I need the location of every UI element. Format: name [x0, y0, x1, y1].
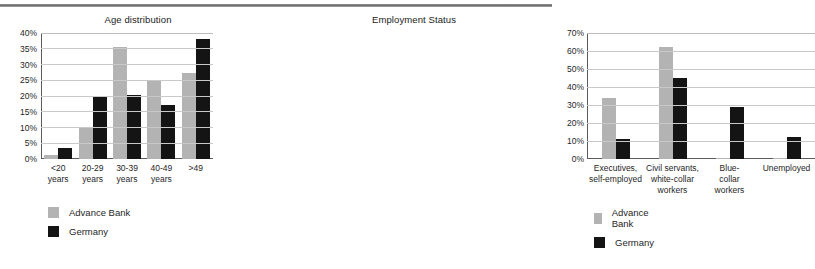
y-tick-age-40pct: 40% [20, 28, 37, 38]
bar-emp-0-advance-bank[interactable] [602, 98, 616, 159]
gridline-emp-20 [587, 123, 815, 124]
x-label-line: <20 [42, 163, 74, 174]
figure-sheet: Age distribution 0%5%10%15%20%25%30%35%4… [0, 9, 552, 269]
legend-item-age-germany[interactable]: Germany [48, 226, 130, 237]
gridline-emp-70 [587, 33, 815, 34]
y-tick-emp-30pct: 30% [567, 100, 584, 110]
x-axis-labels-employment: Executives,self-employed Civil servants,… [587, 163, 815, 196]
y-tick-emp-20pct: 20% [567, 118, 584, 128]
legend-item-emp-advance-bank[interactable]: Advance Bank [594, 207, 654, 229]
x-label-age-4: >49 [179, 163, 213, 185]
y-tick-age-25pct: 25% [20, 75, 37, 85]
y-tick-age-35pct: 35% [20, 44, 37, 54]
gridline-age-35 [41, 48, 213, 49]
bar-age-4-advance-bank[interactable] [182, 73, 196, 159]
legend-employment-status: Advance BankGermany [594, 207, 654, 256]
x-axis-labels-age: <20years20-29years30-39years40-49years>4… [41, 163, 213, 185]
bar-emp-1-advance-bank[interactable] [659, 47, 673, 159]
chart-title-employment-status: Employment Status [276, 14, 552, 25]
x-label-line: workers [702, 185, 757, 196]
x-label-age-1: 20-29years [75, 163, 109, 185]
gridline-age-15 [41, 111, 213, 112]
x-label-line: >49 [180, 163, 212, 174]
plot-area-employment-status [587, 33, 815, 159]
y-axis-employment-status: 0%10%20%30%40%50%60%70% [548, 33, 584, 159]
gridline-age-20 [41, 96, 213, 97]
x-label-line: 30-39 [111, 163, 143, 174]
y-tick-emp-70pct: 70% [567, 28, 584, 38]
bar-age-4-germany[interactable] [196, 39, 210, 159]
legend-label: Germany [69, 226, 108, 237]
y-tick-age-30pct: 30% [20, 60, 37, 70]
gridline-emp-50 [587, 69, 815, 70]
legend-label: Advance Bank [612, 207, 654, 229]
y-tick-age-0pct: 0% [25, 154, 37, 164]
gridline-emp-40 [587, 87, 815, 88]
gridline-emp-30 [587, 105, 815, 106]
x-label-line: Blue- [702, 163, 757, 174]
bar-age-0-advance-bank[interactable] [44, 155, 58, 159]
bar-emp-2-germany[interactable] [730, 107, 744, 159]
x-label-line: 40-49 [145, 163, 177, 174]
legend-age-distribution: Advance BankGermany [48, 207, 130, 245]
gridline-age-10 [41, 127, 213, 128]
x-label-line: Executives, [588, 163, 643, 174]
x-label-line: years [111, 174, 143, 185]
x-label-line: Civil servants, [645, 163, 700, 174]
gridline-emp-60 [587, 51, 815, 52]
gridline-age-25 [41, 80, 213, 81]
y-tick-emp-10pct: 10% [567, 136, 584, 146]
x-label-age-3: 40-49years [144, 163, 178, 185]
x-label-age-0: <20years [41, 163, 75, 185]
x-label-line: 20-29 [76, 163, 108, 174]
gridline-age-30 [41, 64, 213, 65]
bar-age-0-germany[interactable] [58, 148, 72, 159]
top-scan-rule [0, 4, 552, 7]
y-tick-emp-50pct: 50% [567, 64, 584, 74]
x-label-line: self-employed [588, 174, 643, 185]
x-label-emp-0: Executives,self-employed [587, 163, 644, 196]
x-label-line: collar [702, 174, 757, 185]
bar-age-3-germany[interactable] [161, 105, 175, 159]
legend-swatch-icon-advance-bank [48, 207, 59, 218]
gridline-emp-10 [587, 141, 815, 142]
legend-swatch-icon-germany [48, 226, 59, 237]
x-label-line: white-collar [645, 174, 700, 185]
bar-emp-0-germany[interactable] [616, 139, 630, 159]
chart-panel-employment-status: Employment Status 0%10%20%30%40%50%60%70… [276, 9, 552, 269]
gridline-age-40 [41, 33, 213, 34]
y-tick-emp-40pct: 40% [567, 82, 584, 92]
bar-emp-3-advance-bank[interactable] [773, 158, 787, 159]
x-label-line: years [76, 174, 108, 185]
plot-area-age-distribution [41, 33, 213, 159]
legend-label: Advance Bank [69, 207, 130, 218]
y-tick-age-15pct: 15% [20, 107, 37, 117]
legend-label: Germany [615, 237, 654, 248]
x-label-line: years [145, 174, 177, 185]
x-label-emp-1: Civil servants,white-collarworkers [644, 163, 701, 196]
gridline-age-5 [41, 143, 213, 144]
x-label-emp-2: Blue-collarworkers [701, 163, 758, 196]
legend-swatch-icon-germany [594, 237, 605, 248]
x-label-line: workers [645, 185, 700, 196]
x-label-line: Unemployed [759, 163, 814, 174]
y-tick-age-20pct: 20% [20, 91, 37, 101]
y-tick-emp-0pct: 0% [572, 154, 584, 164]
bar-emp-2-advance-bank[interactable] [716, 158, 730, 159]
x-label-emp-3: Unemployed [758, 163, 815, 196]
y-tick-emp-60pct: 60% [567, 46, 584, 56]
legend-swatch-icon-advance-bank [594, 213, 602, 224]
y-tick-age-10pct: 10% [20, 123, 37, 133]
bar-emp-1-germany[interactable] [673, 78, 687, 159]
chart-panel-age-distribution: Age distribution 0%5%10%15%20%25%30%35%4… [0, 9, 276, 269]
y-tick-age-5pct: 5% [25, 138, 37, 148]
y-axis-age-distribution: 0%5%10%15%20%25%30%35%40% [0, 33, 37, 159]
legend-item-emp-germany[interactable]: Germany [594, 237, 654, 248]
chart-title-age-distribution: Age distribution [0, 14, 276, 25]
x-label-line: years [42, 174, 74, 185]
legend-item-age-advance-bank[interactable]: Advance Bank [48, 207, 130, 218]
bar-age-3-advance-bank[interactable] [147, 80, 161, 159]
x-label-age-2: 30-39years [110, 163, 144, 185]
